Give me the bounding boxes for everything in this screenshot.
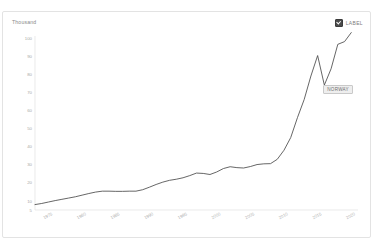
y-tick-label: 50 (27, 126, 32, 131)
line-chart-svg: 5102030405060708090100 19751980198519901… (21, 34, 364, 224)
legend-toggle[interactable]: LABEL (335, 19, 363, 27)
y-tick-label: 5 (30, 208, 33, 213)
y-tick-label: 70 (27, 90, 32, 95)
y-tick-label: 10 (27, 199, 32, 204)
screenshot-root: Thousand LABEL 5102030405060708090100 19… (0, 0, 377, 245)
chart-card: Thousand LABEL 5102030405060708090100 19… (2, 11, 371, 238)
y-tick-label: 60 (27, 108, 32, 113)
chart-plot-area: 5102030405060708090100 19751980198519901… (21, 34, 364, 224)
x-tick-label: 1995 (177, 211, 188, 220)
y-tick-label: 30 (27, 162, 32, 167)
x-tick-label: 2005 (244, 211, 255, 220)
x-tick-label: 1975 (42, 211, 53, 220)
x-tick-label: 1980 (76, 211, 87, 220)
x-tick-label: 1990 (143, 211, 154, 220)
y-axis-tick-labels: 5102030405060708090100 (25, 36, 33, 213)
y-tick-label: 80 (27, 72, 32, 77)
x-tick-label: 2015 (312, 211, 323, 220)
legend-label: LABEL (346, 20, 363, 26)
y-axis-unit-caption: Thousand (12, 19, 36, 25)
y-tick-label: 100 (25, 36, 33, 41)
y-tick-label: 90 (27, 54, 32, 59)
x-tick-label: 2010 (278, 211, 289, 220)
y-tick-label: 40 (27, 144, 32, 149)
series-line-norway[interactable] (35, 33, 351, 205)
x-axis-tick-labels: 1975198019851990199520002005201020152020 (42, 211, 356, 220)
x-tick-label: 1985 (110, 211, 121, 220)
x-tick-label: 2020 (345, 211, 356, 220)
series-end-label-norway[interactable]: NORWAY (323, 85, 353, 94)
x-tick-label: 2000 (211, 211, 222, 220)
checked-checkbox-icon[interactable] (335, 19, 343, 27)
y-tick-label: 20 (27, 180, 32, 185)
